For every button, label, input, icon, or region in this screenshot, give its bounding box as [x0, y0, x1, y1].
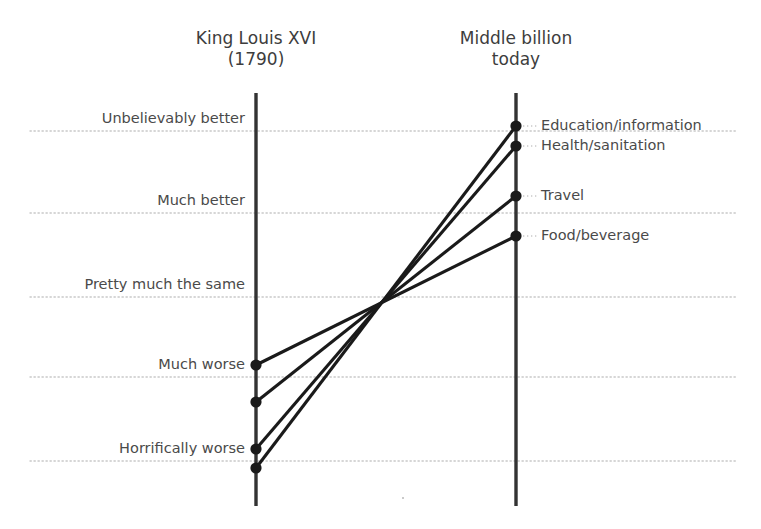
data-point-1-left	[250, 443, 261, 454]
data-point-0-left	[250, 462, 261, 473]
gridlines-group	[30, 126, 737, 461]
series-label-2: Travel	[541, 187, 584, 204]
data-point-3-right	[510, 230, 521, 241]
column-header-right: Middle billion today	[406, 28, 626, 70]
slope-line-3	[256, 236, 516, 365]
scale-label-0: Unbelievably better	[0, 110, 245, 127]
data-point-0-right	[510, 120, 521, 131]
scale-label-4: Horrifically worse	[0, 440, 245, 457]
scale-label-1: Much better	[0, 192, 245, 209]
data-point-2-left	[250, 396, 261, 407]
artifact-speck	[402, 497, 404, 499]
slopegraph-chart: King Louis XVI (1790) Middle billion tod…	[0, 0, 761, 529]
series-label-3: Food/beverage	[541, 227, 649, 244]
data-point-1-right	[510, 140, 521, 151]
series-label-0: Education/information	[541, 117, 702, 134]
data-point-2-right	[510, 190, 521, 201]
scale-label-3: Much worse	[0, 356, 245, 373]
series-label-1: Health/sanitation	[541, 137, 666, 154]
data-point-3-left	[250, 359, 261, 370]
scale-label-2: Pretty much the same	[0, 276, 245, 293]
column-header-left: King Louis XVI (1790)	[146, 28, 366, 70]
